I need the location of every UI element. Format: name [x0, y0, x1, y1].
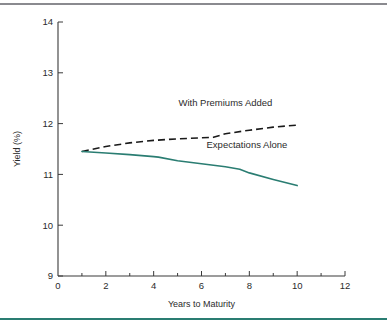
y-tick-label: 10	[42, 220, 53, 231]
yield-curve-chart: 91011121314 024681012 With Premiums Adde…	[0, 6, 387, 316]
x-tick-label: 6	[199, 280, 204, 291]
y-axis-ticks	[58, 22, 63, 276]
y-tick-label: 14	[42, 16, 53, 27]
bottom-divider-rule	[0, 318, 387, 320]
x-axis-tick-labels: 024681012	[55, 280, 350, 291]
y-tick-label: 11	[43, 169, 53, 180]
series-annotation-labels: With Premiums AddedExpectations Alone	[178, 97, 287, 150]
x-tick-label: 0	[55, 280, 60, 291]
x-axis-title: Years to Maturity	[168, 299, 236, 309]
data-series-group	[82, 125, 297, 185]
x-tick-label: 10	[292, 280, 303, 291]
chart-page: 91011121314 024681012 With Premiums Adde…	[0, 0, 387, 328]
y-tick-label: 12	[42, 118, 53, 129]
y-axis-title: Yield (%)	[12, 131, 22, 167]
top-divider-rule	[0, 3, 387, 5]
chart-canvas: 91011121314 024681012 With Premiums Adde…	[0, 6, 387, 316]
y-tick-label: 9	[48, 270, 53, 281]
y-tick-label: 13	[42, 67, 53, 78]
x-tick-label: 2	[103, 280, 108, 291]
y-axis-tick-labels: 91011121314	[42, 16, 53, 281]
x-tick-label: 8	[247, 280, 252, 291]
series-label: Expectations Alone	[207, 139, 288, 150]
x-tick-label: 4	[151, 280, 156, 291]
x-tick-label: 12	[340, 280, 351, 291]
series-line	[82, 152, 297, 186]
series-label: With Premiums Added	[178, 97, 272, 108]
